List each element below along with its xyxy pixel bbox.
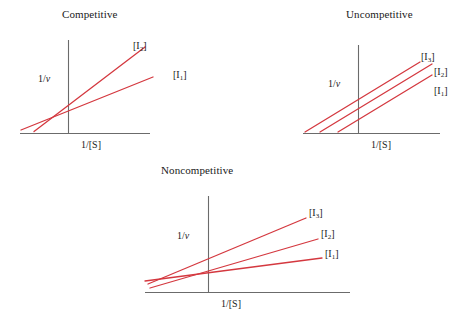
noncompetitive-y-axis-label-var: v <box>185 230 189 241</box>
noncompetitive-line-I1 <box>145 258 322 281</box>
uncompetitive-y-axis-label-var: v <box>336 78 340 89</box>
competitive-series-label-I2: [I2] <box>133 40 147 51</box>
competitive-y-axis-label: 1/v <box>38 73 50 84</box>
uncompetitive-y-axis-label-num: 1/ <box>328 78 336 89</box>
series-label-sub: 2 <box>441 71 445 79</box>
series-label-prefix: [I <box>173 69 180 80</box>
series-label-suffix: ] <box>331 228 334 239</box>
series-label-prefix: [I <box>434 66 441 77</box>
series-label-sub: 2 <box>140 45 144 53</box>
series-label-suffix: ] <box>335 248 338 259</box>
noncompetitive-series-label-I2: [I2] <box>321 228 335 239</box>
series-label-prefix: [I <box>434 85 441 96</box>
noncompetitive-series-label-I3: [I3] <box>309 207 323 218</box>
uncompetitive-line-I3 <box>305 62 420 132</box>
noncompetitive-y-axis-label: 1/v <box>177 230 189 241</box>
noncompetitive-x-axis-label: 1/[S] <box>221 298 241 309</box>
competitive-x-axis-label: 1/[S] <box>81 139 101 150</box>
noncompetitive-series-label-I1: [I1] <box>325 248 339 259</box>
panel-noncompetitive: Noncompetitive 1/v 1/[S] [I3] [I2] [I1] <box>110 160 400 317</box>
series-label-suffix: ] <box>183 69 186 80</box>
uncompetitive-series-label-I2: [I2] <box>434 66 448 77</box>
panel-uncompetitive: Uncompetitive 1/v 1/[S] [I3] [I2] [I1] <box>290 0 471 160</box>
series-label-suffix: ] <box>444 66 447 77</box>
series-label-suffix: ] <box>319 207 322 218</box>
panel-noncompetitive-plot <box>110 160 400 317</box>
uncompetitive-y-axis-label: 1/v <box>328 78 340 89</box>
panel-uncompetitive-plot <box>290 0 471 160</box>
competitive-y-axis-label-var: v <box>46 73 50 84</box>
series-label-sub: 3 <box>316 212 320 220</box>
noncompetitive-line-I3 <box>148 218 306 284</box>
enzyme-inhibition-figure: Competitive 1/v 1/[S] [I2] [I1] Uncompet… <box>0 0 471 317</box>
uncompetitive-x-axis-label: 1/[S] <box>371 139 391 150</box>
series-label-prefix: [I <box>309 207 316 218</box>
series-label-prefix: [I <box>321 228 328 239</box>
competitive-y-axis-label-num: 1/ <box>38 73 46 84</box>
noncompetitive-line-I2 <box>150 239 318 288</box>
competitive-line-I2 <box>34 47 145 132</box>
series-label-suffix: ] <box>431 51 434 62</box>
series-label-suffix: ] <box>143 40 146 51</box>
uncompetitive-series-label-I1: [I1] <box>434 85 448 96</box>
series-label-prefix: [I <box>421 51 428 62</box>
series-label-prefix: [I <box>325 248 332 259</box>
series-label-sub: 3 <box>428 56 432 64</box>
panel-competitive-plot <box>0 0 180 160</box>
uncompetitive-series-label-I3: [I3] <box>421 51 435 62</box>
series-label-sub: 2 <box>328 233 332 241</box>
competitive-series-label-I1: [I1] <box>173 69 187 80</box>
noncompetitive-y-axis-label-num: 1/ <box>177 230 185 241</box>
series-label-sub: 1 <box>332 253 336 261</box>
series-label-prefix: [I <box>133 40 140 51</box>
series-label-suffix: ] <box>444 85 447 96</box>
uncompetitive-line-I2 <box>320 64 432 132</box>
series-label-sub: 1 <box>180 74 184 82</box>
series-label-sub: 1 <box>441 90 445 98</box>
panel-competitive: Competitive 1/v 1/[S] [I2] [I1] <box>0 0 180 160</box>
competitive-line-I1 <box>21 77 153 130</box>
